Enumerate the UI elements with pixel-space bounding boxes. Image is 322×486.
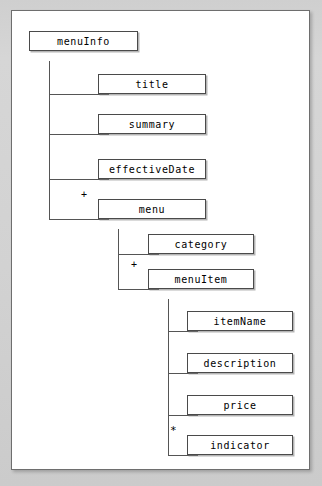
schema-node-title[interactable]: title: [98, 74, 206, 94]
schema-node-label: summary: [129, 119, 175, 130]
schema-node-price[interactable]: price: [187, 395, 293, 415]
schema-node-description[interactable]: description: [187, 353, 293, 373]
schema-node-itemName[interactable]: itemName: [187, 311, 293, 331]
schema-node-label: effectiveDate: [109, 164, 195, 175]
schema-node-label: itemName: [214, 316, 267, 327]
schema-node-indicator[interactable]: indicator: [187, 435, 293, 455]
schema-node-label: title: [135, 79, 168, 90]
schema-node-label: menu: [139, 204, 165, 215]
schema-node-label: category: [175, 239, 228, 250]
schema-node-effectiveDate[interactable]: effectiveDate: [98, 159, 206, 179]
repeat-marker-indicator: *: [170, 426, 177, 436]
schema-node-menuItem[interactable]: menuItem: [148, 269, 254, 289]
schema-node-menu[interactable]: menu: [98, 199, 206, 219]
schema-diagram-frame: menuInfotitlesummaryeffectiveDatemenu+ca…: [11, 10, 310, 470]
schema-node-category[interactable]: category: [148, 234, 254, 254]
schema-node-label: price: [223, 400, 256, 411]
sequence-marker-menu: +: [81, 190, 87, 200]
schema-node-summary[interactable]: summary: [98, 114, 206, 134]
schema-node-label: menuInfo: [57, 36, 110, 47]
schema-node-label: indicator: [210, 440, 270, 451]
schema-node-label: description: [204, 358, 277, 369]
schema-node-label: menuItem: [175, 274, 228, 285]
sequence-marker-menuItem: +: [131, 260, 137, 270]
schema-node-menuInfo[interactable]: menuInfo: [29, 31, 138, 51]
